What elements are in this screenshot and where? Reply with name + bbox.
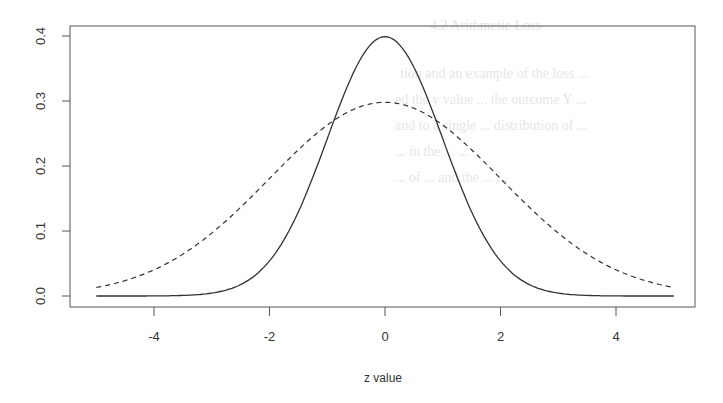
svg-text:... of ... and the ... ...: ... of ... and the ... ... xyxy=(395,170,507,185)
bleed-through-text: 4.2 Arithmetic Loss tion and an example … xyxy=(395,18,588,185)
x-axis: -4-2024 xyxy=(148,307,619,344)
y-axis: 0.00.10.20.30.4 xyxy=(33,27,70,305)
y-tick-label: 0.2 xyxy=(33,157,48,175)
svg-text:and to a single ... distributi: and to a single ... distribution of ... xyxy=(395,118,587,133)
svg-text:tion and an example of the los: tion and an example of the loss ... xyxy=(400,66,588,81)
x-axis-title: z value xyxy=(364,371,402,385)
y-tick-label: 0.0 xyxy=(33,287,48,305)
chart: 4.2 Arithmetic Loss tion and an example … xyxy=(0,0,723,403)
svg-text:ed the y value ... the outcom: ed the y value ... the outcome Y ... xyxy=(395,92,586,107)
x-tick-label: 4 xyxy=(612,329,619,344)
x-tick-label: 0 xyxy=(381,329,388,344)
x-tick-label: -2 xyxy=(264,329,276,344)
y-tick-label: 0.4 xyxy=(33,27,48,45)
y-tick-label: 0.1 xyxy=(33,222,48,240)
x-tick-label: 2 xyxy=(497,329,504,344)
x-tick-label: -4 xyxy=(148,329,160,344)
y-tick-label: 0.3 xyxy=(33,92,48,110)
svg-text:... in the ... ...: ... in the ... ... xyxy=(395,144,469,159)
plot-frame xyxy=(70,26,695,307)
